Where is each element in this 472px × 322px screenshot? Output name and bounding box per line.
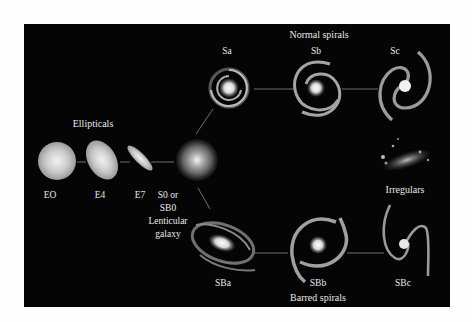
- label-sbb: SBb: [310, 278, 326, 289]
- galaxy-sa: [210, 69, 248, 107]
- galaxy-sba: [187, 215, 259, 271]
- galaxy-sc: [380, 52, 430, 120]
- label-sbc: SBc: [395, 278, 411, 289]
- galaxy-e0: [38, 142, 76, 180]
- irregulars-heading: Irregulars: [386, 184, 425, 195]
- label-e4: E4: [95, 190, 106, 201]
- label-s0-line2: SB0: [160, 203, 176, 214]
- label-s0-line1: S0 or: [158, 190, 178, 201]
- galaxy-e7: [124, 142, 155, 173]
- diagram-graphics: [24, 24, 450, 307]
- label-sa: Sa: [222, 46, 232, 57]
- galaxy-e4: [79, 135, 124, 185]
- label-e7: E7: [135, 190, 146, 201]
- galaxy-sb: [295, 62, 340, 115]
- barred-spirals-heading: Barred spirals: [290, 292, 346, 303]
- ellipticals-heading: Ellipticals: [73, 118, 114, 129]
- label-s0-line3: Lenticular: [148, 216, 187, 227]
- connector-lines: [77, 89, 384, 253]
- galaxy-s0: [176, 139, 218, 181]
- label-s0-line4: galaxy: [155, 229, 180, 240]
- label-sba: SBa: [215, 278, 231, 289]
- hubble-diagram-panel: Normal spirals Sa Sb Sc Ellipticals EO E…: [24, 24, 450, 307]
- galaxy-sbb: [292, 218, 347, 282]
- galaxy-irregular: [380, 138, 434, 176]
- label-e0: EO: [44, 190, 57, 201]
- normal-spirals-heading: Normal spirals: [289, 29, 348, 40]
- galaxy-sbc: [384, 205, 429, 276]
- label-sc: Sc: [390, 46, 400, 57]
- label-sb: Sb: [311, 46, 321, 57]
